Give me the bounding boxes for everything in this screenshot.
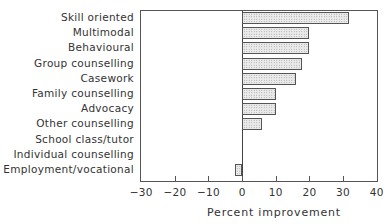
category-label: Multimodal [73, 26, 134, 38]
category-label: Employment/vocational [3, 163, 134, 175]
x-tick [242, 176, 243, 181]
category-label: Skill oriented [61, 11, 134, 23]
bar [242, 58, 303, 70]
category-label: Family counselling [32, 87, 134, 99]
category-label: Advocacy [81, 102, 134, 114]
bar [242, 118, 262, 130]
bar [242, 12, 350, 24]
bar-chart: Skill orientedMultimodalBehaviouralGroup… [0, 0, 388, 224]
x-tick-label: 30 [336, 186, 350, 198]
x-tick-label: 10 [269, 186, 283, 198]
bar [235, 164, 242, 176]
x-tick [309, 176, 310, 181]
x-tick [343, 176, 344, 181]
category-label: Other counselling [36, 117, 134, 129]
category-label: Casework [80, 72, 134, 84]
x-tick-label: −20 [163, 186, 186, 198]
x-tick-label: 0 [239, 186, 246, 198]
x-tick-label: 20 [302, 186, 316, 198]
category-label: Individual counselling [13, 148, 134, 160]
x-tick [175, 176, 176, 181]
plot-area [140, 10, 378, 182]
x-tick [276, 176, 277, 181]
x-axis-label: Percent improvement [207, 206, 341, 219]
bar [242, 88, 276, 100]
x-tick-label: 40 [370, 186, 384, 198]
x-tick-label: −30 [130, 186, 153, 198]
category-label: Group counselling [34, 57, 134, 69]
bar [242, 42, 309, 54]
x-tick [208, 176, 209, 181]
bar [242, 27, 309, 39]
x-tick-label: −10 [197, 186, 220, 198]
category-label: Behavioural [68, 41, 134, 53]
bar [242, 103, 276, 115]
category-label: School class/tutor [35, 133, 134, 145]
bar [242, 73, 296, 85]
